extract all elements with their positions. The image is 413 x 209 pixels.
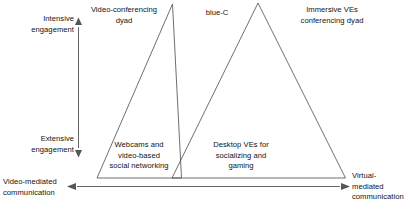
engagement-axis-down-arrowhead [75,150,82,158]
mediation-axis-right-label: Virtual- mediated communication [352,171,412,203]
engagement-axis-bottom-label: Extensive engagement [8,134,74,155]
virtual-mediated-triangle-apex-label: Immersive VEs conferencing dyad [282,5,382,26]
video-mediated-triangle-base-label: Webcams and video-based social networkin… [100,140,178,172]
overlap-label-blue-c: blue-C [192,8,242,19]
diagram-canvas: Intensive engagement Extensive engagemen… [0,0,413,209]
virtual-mediated-triangle-base-label: Desktop VEs for socializing and gaming [198,140,284,172]
engagement-axis [75,18,82,158]
mediation-axis-left-label: Video-mediated communication [3,177,65,198]
mediation-axis-left-arrowhead [67,183,76,190]
engagement-axis-top-label: Intensive engagement [8,14,74,35]
mediation-axis [67,183,350,190]
mediation-axis-right-arrowhead [341,183,350,190]
video-mediated-triangle-apex-label: Video-conferencing dyad [80,5,168,26]
